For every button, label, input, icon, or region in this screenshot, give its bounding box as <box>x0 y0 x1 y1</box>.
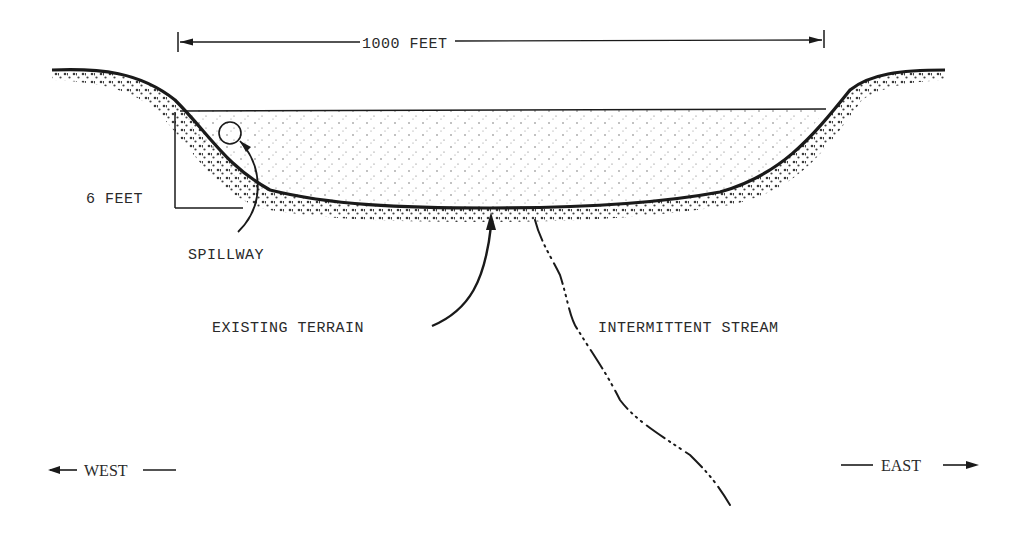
pond-cross-section-diagram: 1000 FEET 6 FEET SPILLWAY EXISTING TERRA… <box>0 0 1029 535</box>
width-dimension: 1000 FEET <box>178 30 824 53</box>
existing-terrain-callout: EXISTING TERRAIN <box>212 212 496 337</box>
spillway-label: SPILLWAY <box>188 247 264 264</box>
width-dimension-label: 1000 FEET <box>362 36 448 53</box>
arrowhead-left-icon <box>180 39 193 46</box>
intermittent-stream-label: INTERMITTENT STREAM <box>598 320 779 337</box>
east-arrow-icon <box>966 461 979 469</box>
east-label: EAST <box>881 457 921 474</box>
depth-dimension-label: 6 FEET <box>86 191 143 208</box>
west-label: WEST <box>84 462 128 479</box>
east-indicator: EAST <box>841 457 979 474</box>
west-indicator: WEST <box>48 462 176 479</box>
west-arrow-icon <box>48 466 60 474</box>
existing-terrain-label: EXISTING TERRAIN <box>212 320 364 337</box>
arrowhead-right-icon <box>809 37 822 44</box>
intermittent-stream-line: INTERMITTENT STREAM <box>535 220 779 505</box>
